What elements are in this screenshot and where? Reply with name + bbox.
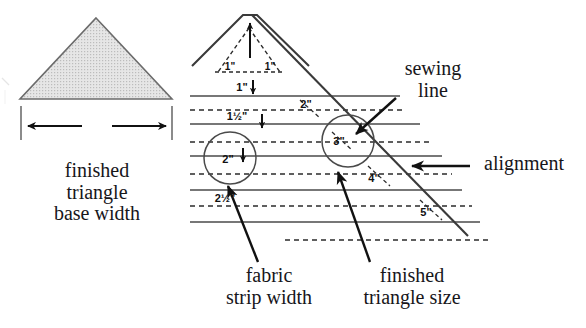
finished-triangle-size-arrow — [338, 172, 370, 262]
size-tick-marks — [300, 100, 442, 220]
figure-canvas: 1" 1½" 2" 2½" 1" 1" 2" 3" 4" 5" finished… — [0, 0, 586, 328]
fabric-strip-width-caption: fabric strip width — [204, 265, 334, 308]
finished-triangle-size-caption: finished triangle size — [338, 265, 486, 308]
sewing-line-caption: sewing line — [378, 58, 488, 101]
triangle-shape — [20, 18, 172, 99]
edge-artifact — [2, 78, 9, 104]
triangle-size-label-5: 5" — [420, 206, 431, 218]
strip-width-label-2: 1½" — [227, 110, 248, 122]
triangle-size-label-2: 2" — [300, 98, 311, 110]
callout-arrows — [228, 98, 470, 262]
strip-width-label-1: 1" — [236, 81, 247, 93]
circle-triangle-size — [322, 115, 374, 167]
triangle-size-label-3: 3" — [333, 135, 344, 147]
triangle-size-label-apex-left: 1" — [225, 61, 236, 72]
strip-width-label-3: 2" — [222, 153, 233, 165]
base-width-measure — [21, 106, 172, 140]
left-finished-triangle — [20, 18, 172, 99]
sewing-line-arrow — [356, 98, 396, 134]
diagonal-sewing-line — [252, 15, 468, 236]
triangle-size-label-apex-right: 1" — [265, 61, 276, 72]
alignment-caption: alignment — [484, 153, 584, 175]
sewing-line-path — [252, 15, 468, 236]
triangle-size-label-4: 4" — [368, 172, 379, 184]
finished-triangle-base-width-caption: finished triangle base width — [22, 160, 172, 225]
strip-width-label-4: 2½" — [215, 192, 236, 204]
